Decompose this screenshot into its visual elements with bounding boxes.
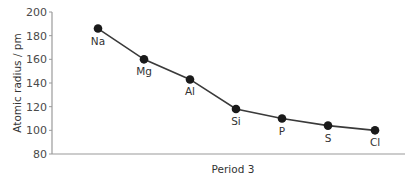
data-point-marker	[278, 114, 287, 123]
y-tick-label: 200	[26, 6, 47, 19]
data-point-label: Si	[231, 115, 241, 127]
data-point-marker	[186, 75, 195, 84]
y-tick-label: 140	[26, 77, 47, 90]
line-chart: 80100120140160180200 NaMgAlSiPSCl Period…	[0, 0, 407, 178]
data-point-label: P	[279, 125, 285, 137]
data-series: NaMgAlSiPSCl	[91, 24, 380, 148]
data-point-label: Cl	[370, 136, 380, 148]
y-tick-label: 160	[26, 53, 47, 66]
data-point-label: S	[325, 132, 332, 144]
data-point-marker	[371, 126, 380, 135]
y-tick-label: 80	[33, 148, 47, 161]
data-point-marker	[324, 121, 333, 130]
data-point-label: Na	[91, 35, 105, 47]
x-axis-title: Period 3	[212, 163, 255, 175]
y-tick-label: 120	[26, 101, 47, 114]
data-point-marker	[94, 24, 103, 33]
data-point-marker	[232, 105, 241, 114]
data-point-label: Al	[185, 85, 195, 97]
y-tick-label: 100	[26, 124, 47, 137]
data-point-label: Mg	[136, 65, 152, 77]
y-axis-title: Atomic radius / pm	[11, 33, 23, 132]
y-axis: 80100120140160180200	[26, 6, 52, 161]
data-point-marker	[140, 55, 149, 64]
y-tick-label: 180	[26, 30, 47, 43]
